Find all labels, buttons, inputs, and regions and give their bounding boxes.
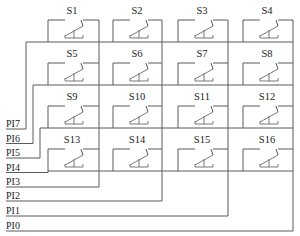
switch-contact bbox=[81, 63, 83, 69]
switch-s12: S12 bbox=[243, 91, 293, 128]
switch-label-s11: S11 bbox=[194, 91, 210, 102]
switch-contact bbox=[276, 20, 278, 26]
switch-label-s8: S8 bbox=[261, 48, 272, 59]
switch-label-s16: S16 bbox=[259, 134, 275, 145]
switch-label-s6: S6 bbox=[131, 48, 142, 59]
switch-left-lead bbox=[113, 149, 130, 171]
switch-label-s4: S4 bbox=[261, 5, 273, 16]
switch-s2: S2 bbox=[113, 5, 162, 42]
pin-label-pi2: PI2 bbox=[6, 190, 20, 201]
switch-label-s1: S1 bbox=[66, 5, 77, 16]
switch-s8: S8 bbox=[243, 48, 293, 85]
switch-label-s15: S15 bbox=[194, 134, 210, 145]
switch-contact bbox=[276, 106, 278, 112]
switch-left-lead bbox=[48, 149, 65, 171]
switch-left-lead bbox=[113, 106, 130, 128]
switch-label-s14: S14 bbox=[129, 134, 146, 145]
switch-left-lead bbox=[113, 63, 130, 85]
switch-left-lead bbox=[243, 106, 260, 128]
keypad-matrix-diagram: S1S2S3S4S5S6S7S8S9S10S11S12S13S14S15S16 … bbox=[0, 0, 300, 236]
switch-label-s5: S5 bbox=[66, 48, 77, 59]
switch-s15: S15 bbox=[178, 134, 228, 171]
switch-left-lead bbox=[48, 20, 65, 42]
switch-s7: S7 bbox=[178, 48, 228, 85]
switch-s3: S3 bbox=[178, 5, 228, 42]
switch-left-lead bbox=[178, 106, 195, 128]
switch-label-s3: S3 bbox=[196, 5, 207, 16]
switch-contact bbox=[211, 106, 213, 112]
pin-label-pi5: PI5 bbox=[6, 147, 20, 158]
switch-left-lead bbox=[243, 20, 260, 42]
switch-contact bbox=[276, 149, 278, 155]
switch-label-s2: S2 bbox=[131, 5, 142, 16]
switch-contact bbox=[211, 149, 213, 155]
switch-s6: S6 bbox=[113, 48, 162, 85]
switch-contact bbox=[146, 63, 148, 69]
switch-left-lead bbox=[178, 149, 195, 171]
switch-left-lead bbox=[243, 149, 260, 171]
switch-s9: S9 bbox=[48, 91, 99, 128]
pin-label-pi7: PI7 bbox=[6, 118, 20, 129]
switch-left-lead bbox=[243, 63, 260, 85]
switch-label-s10: S10 bbox=[129, 91, 145, 102]
switch-label-s7: S7 bbox=[196, 48, 207, 59]
switch-left-lead bbox=[113, 20, 130, 42]
switch-s1: S1 bbox=[48, 5, 99, 42]
switch-contact bbox=[146, 20, 148, 26]
switch-s11: S11 bbox=[178, 91, 228, 128]
switch-contact bbox=[211, 20, 213, 26]
switch-left-lead bbox=[178, 20, 195, 42]
switch-contact bbox=[146, 106, 148, 112]
switch-left-lead bbox=[48, 63, 65, 85]
switch-grid: S1S2S3S4S5S6S7S8S9S10S11S12S13S14S15S16 bbox=[48, 5, 293, 171]
switch-contact bbox=[211, 63, 213, 69]
switch-s14: S14 bbox=[113, 134, 162, 171]
wiring bbox=[6, 20, 293, 231]
pin-labels: PI7PI6PI5PI4PI3PI2PI1PI0 bbox=[6, 118, 20, 231]
pin-label-pi6: PI6 bbox=[6, 133, 20, 144]
switch-s5: S5 bbox=[48, 48, 99, 85]
switch-label-s12: S12 bbox=[259, 91, 275, 102]
switch-contact bbox=[81, 149, 83, 155]
switch-contact bbox=[146, 149, 148, 155]
switch-label-s13: S13 bbox=[64, 134, 80, 145]
switch-contact bbox=[81, 106, 83, 112]
switch-left-lead bbox=[48, 106, 65, 128]
switch-contact bbox=[276, 63, 278, 69]
switch-label-s9: S9 bbox=[66, 91, 77, 102]
pin-label-pi1: PI1 bbox=[6, 205, 20, 216]
pin-label-pi4: PI4 bbox=[6, 162, 20, 173]
pin-label-pi0: PI0 bbox=[6, 220, 20, 231]
switch-s10: S10 bbox=[113, 91, 162, 128]
switch-left-lead bbox=[178, 63, 195, 85]
switch-s4: S4 bbox=[243, 5, 293, 42]
switch-contact bbox=[81, 20, 83, 26]
pin-label-pi3: PI3 bbox=[6, 176, 20, 187]
switch-s13: S13 bbox=[48, 134, 99, 171]
switch-s16: S16 bbox=[243, 134, 293, 171]
